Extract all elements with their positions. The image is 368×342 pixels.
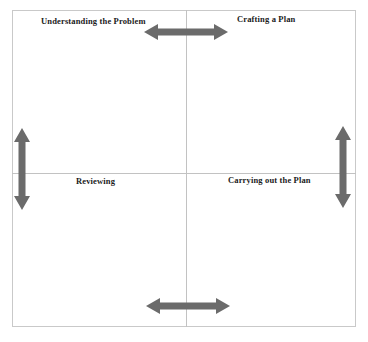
double-arrow-horizontal-bottom-icon [146,296,230,316]
double-arrow-horizontal-top-icon [144,22,228,42]
quadrant-label-understanding-the-problem: Understanding the Problem [41,16,146,26]
divider-vertical [186,10,187,327]
quadrant-label-crafting-a-plan: Crafting a Plan [237,14,295,24]
quadrant-label-reviewing: Reviewing [76,176,115,186]
divider-horizontal [12,173,356,174]
matrix-frame [12,10,356,327]
double-arrow-vertical-right-icon [333,126,353,208]
double-arrow-vertical-left-icon [12,128,32,210]
diagram-canvas: Understanding the Problem Crafting a Pla… [0,0,368,342]
quadrant-label-carrying-out-the-plan: Carrying out the Plan [228,175,311,185]
